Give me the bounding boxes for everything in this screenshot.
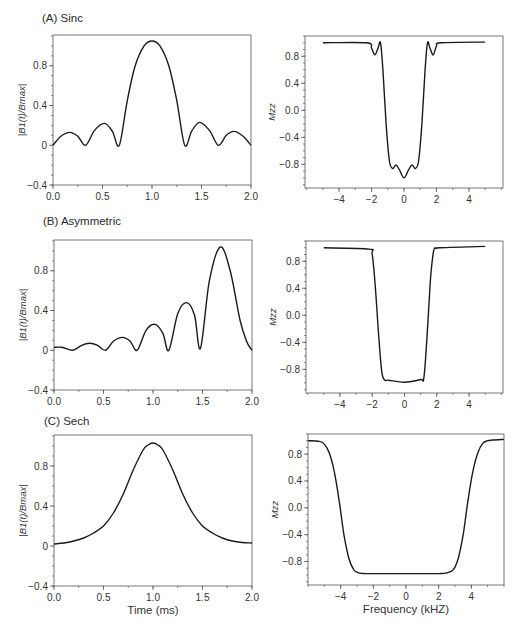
axes-frame [54, 240, 252, 390]
figure: (A) Sinc (B) Asymmetric (C) Sech −0.400.… [0, 0, 523, 629]
y-tick-label: 0.4 [288, 475, 302, 486]
x-tick-label: 1.5 [196, 396, 210, 407]
x-tick-label: 0 [403, 591, 409, 602]
x-tick-label: −4 [334, 399, 346, 410]
y-tick-label: 0 [41, 140, 47, 151]
y-tick-label: −0.8 [282, 556, 302, 567]
x-tick-label: 1.0 [146, 592, 160, 603]
x-tick-label: 0.5 [97, 592, 111, 603]
y-tick-label: −0.8 [280, 364, 300, 375]
axes-frame [305, 36, 503, 188]
x-tick-label: 0.5 [97, 396, 111, 407]
chart-A-right: −0.8−0.40.00.40.8−4−2024Mzz [266, 36, 503, 205]
chart-A-left: −0.400.40.80.00.51.01.52.0|B1(t)/Bmax| [16, 35, 258, 202]
x-tick-label: 2.0 [245, 396, 259, 407]
y-tick-label: −0.4 [280, 337, 300, 348]
x-tick-label: 4 [466, 194, 472, 205]
data-line [324, 246, 485, 382]
y-tick-label: −0.4 [28, 581, 48, 592]
y-axis-label: Mzz [269, 501, 280, 519]
x-tick-label: 0.0 [46, 191, 60, 202]
x-tick-label: 2.0 [244, 191, 258, 202]
axes-frame [308, 434, 504, 585]
data-line [54, 443, 252, 544]
chart-B-left: −0.400.40.80.00.51.01.52.0|B1(t)/Bmax| [17, 240, 259, 407]
y-tick-label: 0.0 [286, 310, 300, 321]
x-tick-label: 0.0 [47, 396, 61, 407]
x-tick-label: 0.0 [47, 592, 61, 603]
y-tick-label: 0.8 [285, 51, 299, 62]
x-axis-label: Frequency (kHZ) [363, 603, 449, 615]
y-tick-label: 0.4 [286, 283, 300, 294]
axes-frame [53, 35, 251, 185]
y-axis-label: Mzz [267, 308, 278, 326]
y-tick-label: 0.8 [286, 256, 300, 267]
y-axis-label: |B1(t)/Bmax| [16, 84, 27, 136]
plots-canvas: −0.400.40.80.00.51.01.52.0|B1(t)/Bmax|−0… [0, 0, 523, 629]
x-tick-label: 4 [469, 591, 475, 602]
x-tick-label: −4 [335, 591, 347, 602]
y-tick-label: 0 [42, 541, 48, 552]
y-tick-label: −0.4 [279, 132, 299, 143]
data-line [53, 41, 251, 146]
chart-C-right: −0.8−0.40.00.40.8−4−2024MzzFrequency (kH… [269, 434, 504, 615]
y-tick-label: 0.8 [34, 265, 48, 276]
y-axis-label: Mzz [266, 103, 277, 121]
x-tick-label: 1.5 [195, 191, 209, 202]
y-tick-label: −0.4 [28, 385, 48, 396]
x-tick-label: 1.0 [146, 396, 160, 407]
y-tick-label: 0.4 [285, 78, 299, 89]
axes-frame [54, 435, 252, 586]
chart-B-right: −0.8−0.40.00.40.8−4−2024Mzz [267, 241, 503, 410]
x-tick-label: 1.5 [196, 592, 210, 603]
y-tick-label: 0.4 [34, 501, 48, 512]
x-tick-label: −2 [367, 399, 379, 410]
x-tick-label: −2 [366, 194, 378, 205]
y-tick-label: 0.8 [34, 461, 48, 472]
x-tick-label: −2 [368, 591, 380, 602]
x-tick-label: 2 [434, 194, 440, 205]
y-tick-label: 0 [42, 345, 48, 356]
y-tick-label: −0.8 [279, 159, 299, 170]
data-line [54, 247, 252, 351]
y-tick-label: 0.8 [33, 60, 47, 71]
y-tick-label: 0.0 [285, 105, 299, 116]
y-axis-label: |B1(t)/Bmax| [17, 484, 28, 536]
y-tick-label: 0.4 [34, 305, 48, 316]
x-tick-label: −4 [333, 194, 345, 205]
x-tick-label: 2 [434, 399, 440, 410]
y-tick-label: 0.4 [33, 100, 47, 111]
x-tick-label: 2 [436, 591, 442, 602]
x-tick-label: 0 [402, 399, 408, 410]
chart-C-left: −0.400.40.80.00.51.01.52.0|B1(t)/Bmax|Ti… [17, 435, 259, 616]
y-tick-label: −0.4 [27, 180, 47, 191]
x-tick-label: 2.0 [245, 592, 259, 603]
x-tick-label: 1.0 [145, 191, 159, 202]
data-line [323, 42, 485, 178]
axes-frame [306, 241, 503, 393]
y-tick-label: −0.4 [282, 529, 302, 540]
y-axis-label: |B1(t)/Bmax| [17, 289, 28, 341]
y-tick-label: 0.0 [288, 502, 302, 513]
x-tick-label: 0.5 [96, 191, 110, 202]
x-tick-label: 4 [466, 399, 472, 410]
data-line [308, 439, 504, 573]
x-tick-label: 0 [401, 194, 407, 205]
x-axis-label: Time (ms) [127, 604, 178, 616]
y-tick-label: 0.8 [288, 449, 302, 460]
